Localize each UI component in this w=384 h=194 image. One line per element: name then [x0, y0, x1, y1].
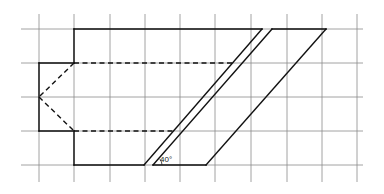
- angle-label: 40°: [160, 155, 172, 164]
- hidden-edge-hidden-diag-lower: [39, 97, 74, 131]
- hidden-edge-hidden-diag-upper: [39, 63, 74, 97]
- grid: [21, 14, 363, 182]
- diagram-canvas: 40°: [0, 0, 384, 194]
